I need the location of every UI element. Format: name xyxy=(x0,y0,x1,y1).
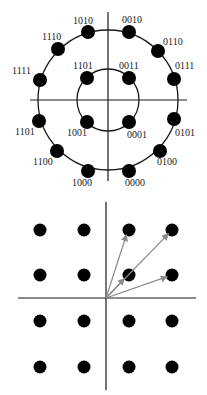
constellation-point xyxy=(34,224,47,237)
constellation-point xyxy=(122,71,136,85)
square-grid-constellation-diagram xyxy=(18,202,196,390)
point-label: 1100 xyxy=(33,156,53,167)
constellation-point xyxy=(81,164,95,178)
constellation-point xyxy=(81,25,95,39)
constellation-point xyxy=(166,269,179,282)
constellation-point xyxy=(34,269,47,282)
constellation-point xyxy=(34,315,47,328)
constellation-point xyxy=(166,315,179,328)
constellation-point xyxy=(167,112,181,126)
constellation-point xyxy=(78,224,91,237)
constellation-point xyxy=(166,361,179,374)
constellation-point xyxy=(33,73,47,87)
point-label: 0001 xyxy=(127,129,147,140)
constellation-diagrams: 1010001011100110111101111101010111000100… xyxy=(0,0,207,395)
circular-constellation-diagram: 1010001011100110111101111101010111000100… xyxy=(12,12,195,188)
constellation-point xyxy=(123,315,136,328)
constellation-point xyxy=(122,25,136,39)
vector-arrow xyxy=(106,235,126,298)
constellation-point xyxy=(34,361,47,374)
point-label: 0111 xyxy=(175,60,194,71)
constellation-point xyxy=(78,315,91,328)
point-label: 1101 xyxy=(15,126,35,137)
constellation-point xyxy=(51,42,65,56)
constellation-point xyxy=(167,72,181,86)
constellation-point xyxy=(123,224,136,237)
point-label: 0110 xyxy=(163,36,183,47)
constellation-point xyxy=(123,361,136,374)
constellation-point xyxy=(122,115,136,129)
point-label: 0100 xyxy=(157,156,177,167)
point-label: 1010 xyxy=(73,15,93,26)
constellation-point xyxy=(122,164,136,178)
constellation-point xyxy=(78,361,91,374)
point-label: 1101 xyxy=(73,60,93,71)
point-label: 0101 xyxy=(175,127,195,138)
point-label: 0010 xyxy=(122,14,142,25)
point-label: 1110 xyxy=(42,31,61,42)
point-label: 0000 xyxy=(125,177,145,188)
point-label: 1000 xyxy=(72,177,92,188)
point-label: 0011 xyxy=(119,60,139,71)
vector-arrow xyxy=(106,277,167,298)
point-label: 1001 xyxy=(67,127,87,138)
point-label: 1111 xyxy=(12,65,31,76)
constellation-point xyxy=(78,269,91,282)
constellation-point xyxy=(80,71,94,85)
